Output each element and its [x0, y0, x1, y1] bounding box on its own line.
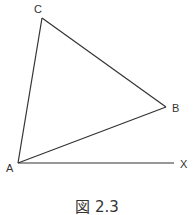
- label-c: C: [34, 3, 42, 15]
- label-a: A: [6, 162, 14, 174]
- segment-cb: [42, 18, 166, 107]
- segment-ba: [18, 107, 166, 163]
- segment-ac: [18, 18, 42, 163]
- triangle-diagram: C B A X: [0, 0, 194, 215]
- figure-caption: 図 2.3: [0, 195, 194, 215]
- label-x: X: [180, 158, 188, 170]
- label-b: B: [172, 102, 179, 114]
